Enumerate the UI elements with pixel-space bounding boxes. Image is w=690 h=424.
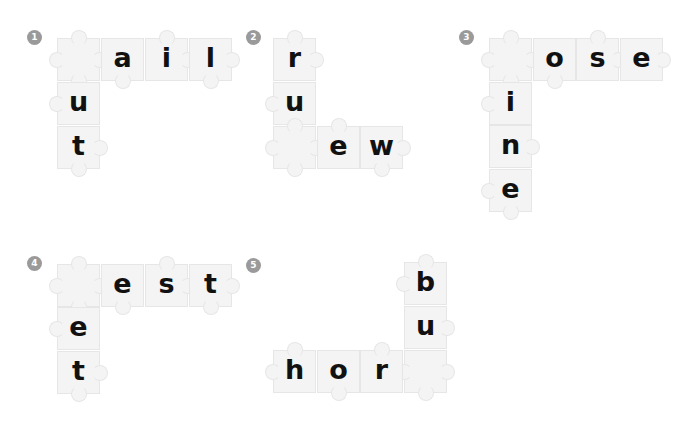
puzzle-knob-left [396, 276, 412, 292]
puzzle-piece-letter[interactable]: h [273, 350, 316, 393]
puzzle-knob-top [71, 256, 87, 272]
puzzle-knob-right [655, 52, 671, 68]
puzzle-piece-blank[interactable] [273, 126, 316, 169]
puzzle-letter: e [69, 313, 87, 340]
puzzle-letter: s [589, 44, 605, 71]
puzzle-knob-top [287, 118, 303, 134]
puzzle-knob-right [524, 139, 540, 155]
puzzle-knob-right [224, 52, 240, 68]
puzzle-piece-blank[interactable] [57, 38, 100, 81]
puzzle-knob-right [224, 278, 240, 294]
puzzle-piece-letter[interactable]: u [404, 306, 447, 349]
puzzle-piece-letter[interactable]: e [57, 307, 100, 350]
puzzle-piece-letter[interactable]: a [101, 38, 144, 81]
puzzle-letter: l [206, 44, 215, 71]
puzzle-piece-blank[interactable] [404, 350, 447, 393]
puzzle-knob-bottom [418, 385, 434, 401]
puzzle-letter: e [113, 270, 131, 297]
puzzle-knob-right [92, 365, 108, 381]
puzzle-piece-letter[interactable]: i [145, 38, 188, 81]
puzzle-letter: w [369, 132, 394, 159]
puzzle-knob-left [265, 140, 281, 156]
puzzle-piece-letter[interactable]: n [489, 125, 532, 168]
puzzle-letter: t [72, 132, 85, 159]
puzzle-letter: s [158, 270, 174, 297]
puzzle-knob-left [481, 96, 497, 112]
puzzle-piece-blank[interactable] [489, 38, 532, 81]
puzzle-knob-bottom [115, 299, 131, 315]
puzzle-knob-top [71, 30, 87, 46]
puzzle-knob-left [49, 321, 65, 337]
puzzle-piece-letter[interactable]: e [317, 126, 360, 169]
puzzle-number-badge: 1 [27, 30, 42, 45]
puzzle-number-badge: 2 [246, 30, 261, 45]
puzzle-knob-left [265, 364, 281, 380]
puzzle-knob-right [439, 364, 455, 380]
puzzle-knob-bottom [374, 161, 390, 177]
puzzle-piece-letter[interactable]: e [489, 169, 532, 212]
puzzle-letter: b [416, 268, 435, 295]
puzzle-letter: a [113, 44, 131, 71]
puzzle-piece-letter[interactable]: w [360, 126, 403, 169]
puzzle-knob-bottom [503, 204, 519, 220]
puzzle-knob-top [503, 30, 519, 46]
puzzle-knob-right [92, 140, 108, 156]
puzzle-letter: o [329, 356, 348, 383]
puzzle-knob-right [308, 52, 324, 68]
puzzle-letter: i [162, 44, 171, 71]
puzzle-letter: i [506, 88, 515, 115]
puzzle-letter: u [285, 88, 304, 115]
puzzle-letter: e [329, 132, 347, 159]
puzzle-piece-letter[interactable]: t [189, 264, 232, 307]
puzzle-knob-bottom [287, 161, 303, 177]
puzzle-letter: r [288, 44, 301, 71]
puzzle-knob-left [49, 96, 65, 112]
puzzle-letter: e [501, 175, 519, 202]
puzzle-letter: u [416, 312, 435, 339]
puzzle-knob-bottom [203, 73, 219, 89]
puzzle-knob-bottom [203, 299, 219, 315]
puzzle-piece-letter[interactable]: l [189, 38, 232, 81]
puzzle-knob-left [481, 52, 497, 68]
puzzle-knob-bottom [71, 386, 87, 402]
puzzle-letter: t [204, 270, 217, 297]
puzzle-knob-left [49, 52, 65, 68]
puzzle-knob-left [481, 183, 497, 199]
puzzle-piece-letter[interactable]: o [317, 350, 360, 393]
puzzle-piece-letter[interactable]: s [576, 38, 619, 81]
puzzle-piece-blank[interactable] [57, 264, 100, 307]
puzzle-number-badge: 4 [27, 256, 42, 271]
puzzle-knob-bottom [71, 161, 87, 177]
puzzle-letter: u [69, 88, 88, 115]
puzzle-number-badge: 3 [459, 30, 474, 45]
puzzle-letter: t [72, 357, 85, 384]
puzzle-letter: h [285, 356, 304, 383]
puzzle-piece-letter[interactable]: s [145, 264, 188, 307]
puzzle-piece-letter[interactable]: e [620, 38, 663, 81]
puzzle-piece-letter[interactable]: e [101, 264, 144, 307]
puzzle-letter: o [545, 44, 564, 71]
puzzle-letter: e [632, 44, 650, 71]
puzzle-piece-letter[interactable]: r [273, 38, 316, 81]
puzzle-piece-letter[interactable]: i [489, 82, 532, 125]
puzzle-number-badge: 5 [246, 258, 261, 273]
puzzle-piece-letter[interactable]: r [360, 350, 403, 393]
puzzle-piece-letter[interactable]: t [57, 126, 100, 169]
puzzle-piece-letter[interactable]: u [57, 82, 100, 125]
puzzle-piece-letter[interactable]: t [57, 351, 100, 394]
puzzle-knob-bottom [547, 73, 563, 89]
puzzle-letter: r [375, 356, 388, 383]
puzzle-letter: n [501, 131, 520, 158]
puzzle-knob-left [265, 96, 281, 112]
puzzle-knob-bottom [115, 73, 131, 89]
puzzle-knob-right [439, 320, 455, 336]
puzzle-knob-right [395, 140, 411, 156]
puzzle-piece-letter[interactable]: o [533, 38, 576, 81]
puzzle-piece-letter[interactable]: b [404, 262, 447, 305]
puzzle-knob-left [49, 278, 65, 294]
puzzle-knob-bottom [331, 385, 347, 401]
